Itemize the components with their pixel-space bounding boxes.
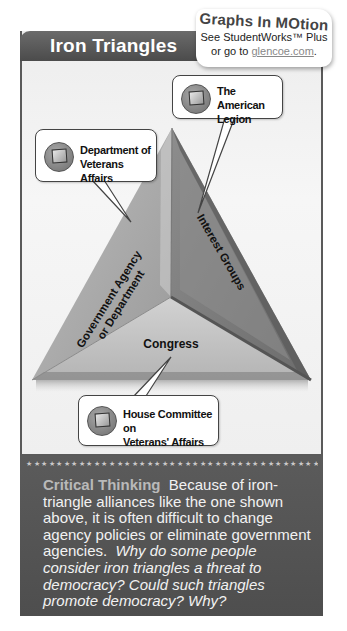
computer-monitor-icon <box>44 142 74 172</box>
bottom-face-bevel <box>32 372 311 380</box>
label-congress: Congress <box>143 337 199 351</box>
pointer-american-legion <box>198 114 236 213</box>
critical-thinking-heading: Critical Thinking <box>43 476 161 493</box>
callout-house-committee: House Committee onVeterans' Affairs <box>78 395 219 446</box>
critical-thinking-box: ★★★★★★★★★★★★★★★★★★★★★★★★★★★★★★★★★★★★★★★★… <box>20 456 323 616</box>
callout-label: Department ofVeterans Affairs <box>80 143 156 185</box>
critical-thinking-text: Critical Thinking Because of iron-triang… <box>43 477 313 610</box>
callout-label: The AmericanLegion <box>217 84 282 126</box>
triangle-shadow <box>36 380 308 392</box>
pointer-veterans-affairs <box>92 180 131 222</box>
callout-american-legion: The AmericanLegion <box>172 75 283 119</box>
callout-label: House Committee onVeterans' Affairs <box>123 407 218 449</box>
computer-monitor-icon <box>181 84 211 114</box>
computer-monitor-icon <box>87 406 117 436</box>
star-divider: ★★★★★★★★★★★★★★★★★★★★★★★★★★★★★★★★★★★★★★★★… <box>26 460 318 468</box>
iron-triangle-diagram: Government Agency or Department Interest… <box>0 0 347 460</box>
callout-veterans-affairs: Department ofVeterans Affairs <box>35 129 157 182</box>
left-face-bevel <box>160 128 172 297</box>
